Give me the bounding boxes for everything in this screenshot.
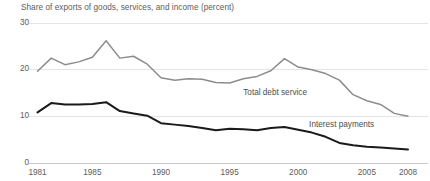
x-tick-label-1995: 1995 <box>214 168 246 177</box>
y-tick-label-20: 20 <box>7 64 29 73</box>
x-tick-label-2008: 2008 <box>392 168 424 177</box>
x-tick-label-1981: 1981 <box>22 168 54 177</box>
series-label-interest-payments: Interest payments <box>309 120 374 129</box>
gridlines-group <box>29 23 429 164</box>
y-tick-label-0: 0 <box>7 158 29 167</box>
series-label-total-debt-service: Total debt service <box>243 88 307 97</box>
x-tick-label-2005: 2005 <box>351 168 383 177</box>
x-tick-label-1990: 1990 <box>145 168 177 177</box>
line-chart-plot <box>0 0 430 181</box>
chart-container: Share of exports of goods, services, and… <box>0 0 430 181</box>
y-tick-label-10: 10 <box>7 111 29 120</box>
y-tick-label-30: 30 <box>7 18 29 27</box>
series-paths-group <box>38 41 409 150</box>
x-tick-label-2000: 2000 <box>282 168 314 177</box>
x-tick-label-1985: 1985 <box>76 168 108 177</box>
